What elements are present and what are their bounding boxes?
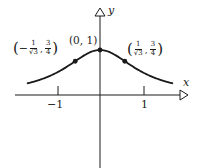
inflection-point-left: [73, 59, 78, 64]
x-denominator: √3: [134, 50, 143, 58]
comma: ,: [145, 46, 148, 57]
x-fraction: 1 √3: [134, 41, 143, 57]
close-paren: ): [157, 42, 163, 57]
x-denominator: √3: [29, 49, 38, 57]
y-fraction: 3 4: [150, 41, 156, 57]
open-paren: (: [127, 42, 133, 57]
y-denominator: 4: [151, 50, 155, 58]
y-denominator: 4: [46, 49, 50, 57]
graph-canvas: [0, 0, 199, 168]
minus-sign: −: [19, 43, 28, 54]
peak-label: (0, 1): [69, 35, 97, 46]
comma: ,: [40, 45, 43, 56]
x-axis-arrow-icon: [180, 90, 188, 100]
y-axis-label: y: [108, 5, 114, 16]
close-paren: ): [52, 41, 58, 56]
x-tick-label-neg1: −1: [47, 99, 63, 110]
x-tick-label-pos1: 1: [141, 99, 148, 110]
y-axis-arrow-icon: [95, 8, 105, 16]
inflection-point-right: [122, 59, 127, 64]
y-fraction: 3 4: [45, 40, 51, 56]
x-axis-label: x: [183, 77, 189, 88]
right-point-label: ( 1 √3 , 3 4 ): [127, 41, 163, 57]
left-point-label: ( − 1 √3 , 3 4 ): [13, 40, 58, 56]
x-fraction: 1 √3: [29, 40, 38, 56]
maximum-point: [98, 48, 103, 53]
